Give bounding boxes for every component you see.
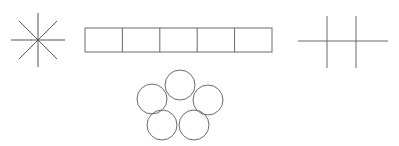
five-cell-rectangle-bar xyxy=(85,28,272,52)
canvas-background xyxy=(0,0,399,146)
figure-canvas-container xyxy=(0,0,399,146)
line-figure-drawing xyxy=(0,0,399,146)
bar-outline xyxy=(85,28,272,52)
eight-spoke-asterisk xyxy=(11,13,65,67)
